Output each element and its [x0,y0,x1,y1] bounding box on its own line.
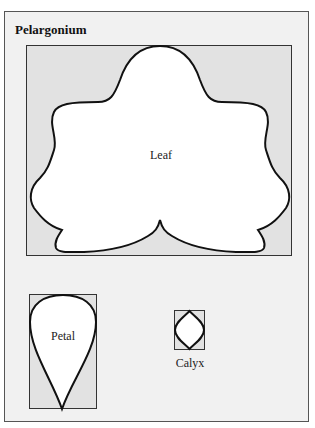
calyx-label: Calyx [176,356,205,371]
pattern-diagram [0,0,315,428]
leaf-label: Leaf [150,148,172,163]
petal-label: Petal [51,329,75,344]
